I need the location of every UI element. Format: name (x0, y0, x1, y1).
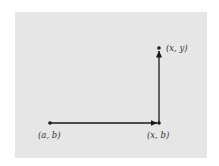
label-x-y: (x, y) (166, 43, 188, 53)
point-x-b (157, 121, 161, 125)
diagram-canvas: (a, b) (x, b) (x, y) (0, 0, 219, 166)
label-a-b: (a, b) (38, 130, 61, 140)
point-a-b (48, 121, 52, 125)
label-x-b: (x, b) (147, 130, 169, 140)
point-x-y (157, 46, 161, 50)
